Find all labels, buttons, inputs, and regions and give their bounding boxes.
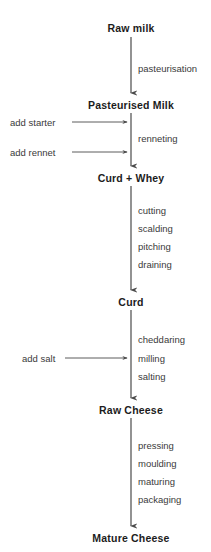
step-pitching: pitching — [138, 241, 171, 252]
flowchart-canvas: Raw milk Pasteurised Milk Curd + Whey Cu… — [0, 0, 211, 552]
step-scalding: scalding — [138, 223, 173, 234]
node-curd-whey: Curd + Whey — [98, 172, 165, 184]
step-draining: draining — [138, 259, 172, 270]
input-branch-connectors — [65, 122, 127, 358]
step-packaging: packaging — [138, 494, 181, 505]
step-cutting: cutting — [138, 205, 166, 216]
step-maturing: maturing — [138, 476, 175, 487]
step-pressing: pressing — [138, 440, 174, 451]
input-add-starter: add starter — [10, 117, 55, 128]
step-moulding: moulding — [138, 458, 177, 469]
node-raw-milk: Raw milk — [107, 22, 154, 34]
step-pasteurisation: pasteurisation — [138, 63, 197, 74]
input-add-rennet: add rennet — [10, 147, 55, 158]
node-mature-cheese: Mature Cheese — [92, 532, 169, 544]
node-raw-cheese: Raw Cheese — [99, 404, 163, 416]
node-curd: Curd — [118, 296, 143, 308]
input-add-salt: add salt — [22, 353, 55, 364]
step-cheddaring: cheddaring — [138, 334, 185, 345]
step-renneting: renneting — [138, 133, 178, 144]
flowchart-connector-layer — [0, 0, 211, 552]
node-pasteurised-milk: Pasteurised Milk — [88, 99, 174, 111]
step-milling: milling — [138, 353, 165, 364]
step-salting: salting — [138, 371, 165, 382]
